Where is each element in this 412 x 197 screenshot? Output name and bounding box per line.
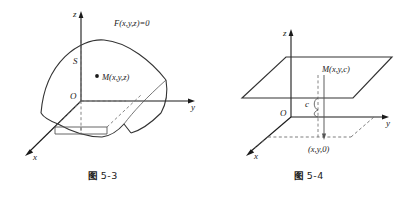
caption-number-right: 5-4 <box>307 170 324 181</box>
z-axis <box>289 29 294 117</box>
origin-label: O <box>280 108 287 118</box>
figure-5-3-canvas: z y x O <box>0 0 206 168</box>
y-axis <box>291 115 389 120</box>
projection-point-label: (x,y,0) <box>308 144 329 154</box>
caption-label-left: 图 <box>88 170 99 181</box>
origin-label: O <box>70 91 77 101</box>
x-axis-label: x <box>253 151 258 161</box>
z-axis-label: z <box>282 28 287 38</box>
figure-5-3: z y x O <box>0 0 206 197</box>
surface-equation-label: F(x,y,z)=0 <box>113 18 150 28</box>
figure-5-4-canvas: z y x O <box>206 0 412 168</box>
surface-fold-line <box>124 80 166 124</box>
z-axis <box>79 11 84 101</box>
point-m-label: M(x,y,z) <box>101 72 130 82</box>
surface-name-label: S <box>73 56 78 66</box>
x-axis-label: x <box>32 152 37 162</box>
vertical-drop-segment <box>318 75 326 140</box>
figure-5-4: z y x O <box>206 0 412 197</box>
height-label-c: c <box>305 99 309 109</box>
caption-number-left: 5-3 <box>101 170 118 181</box>
x-axis <box>246 117 291 156</box>
height-indicator <box>314 98 318 117</box>
figure-5-4-caption: 图5-4 <box>206 168 412 182</box>
z-axis-label: z <box>72 9 77 19</box>
point-m-marker <box>95 74 99 78</box>
figure-5-3-caption: 图5-3 <box>0 168 206 182</box>
caption-label-right: 图 <box>294 170 305 181</box>
plane-z-equals-c <box>242 57 392 98</box>
y-axis-label: y <box>385 118 390 128</box>
figure-sheet: z y x O <box>0 0 412 197</box>
y-axis-label: y <box>190 102 195 112</box>
point-m-label: M(x,y,c) <box>321 64 350 74</box>
